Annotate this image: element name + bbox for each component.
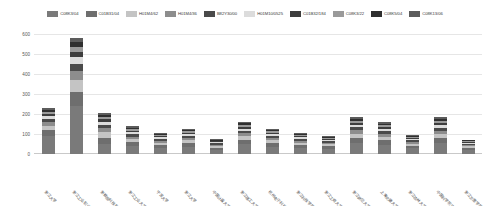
bar-segment bbox=[70, 64, 83, 72]
plot-area: 0100200300400500600 浙江大学浙江工业职业技术学院浙数据科技职… bbox=[34, 34, 482, 154]
legend-item[interactable]: C01B32/184 bbox=[290, 11, 326, 17]
bar-stack[interactable] bbox=[182, 129, 195, 154]
bar-stack[interactable] bbox=[350, 117, 363, 154]
bar-segment bbox=[266, 147, 279, 154]
bar-segment bbox=[98, 144, 111, 154]
bar-stack[interactable] bbox=[434, 117, 447, 154]
x-axis-tick-label: 浙江农林大学 bbox=[407, 190, 427, 206]
bar-segment bbox=[70, 80, 83, 92]
bar-segment bbox=[462, 150, 475, 154]
bar-stack[interactable] bbox=[210, 139, 223, 154]
bar-segment bbox=[126, 146, 139, 154]
legend-label: C08K3/04 bbox=[60, 11, 78, 17]
legend-swatch-icon bbox=[244, 11, 255, 17]
y-axis-tick-label: 500 bbox=[22, 52, 30, 57]
bar-stack[interactable] bbox=[266, 129, 279, 154]
bar-stack[interactable] bbox=[126, 126, 139, 154]
legend-swatch-icon bbox=[371, 11, 382, 17]
x-axis-tick-label: 浙江工商大学 bbox=[323, 190, 343, 206]
bar-stack[interactable] bbox=[70, 38, 83, 154]
y-axis-tick-label: 300 bbox=[22, 92, 30, 97]
y-axis-tick-label: 400 bbox=[22, 72, 30, 77]
legend-item[interactable]: C08K3/04 bbox=[47, 11, 78, 17]
legend-label: H01M10/0525 bbox=[257, 11, 283, 17]
y-axis-tick-label: 0 bbox=[27, 152, 30, 157]
x-axis-tick-label: 浙江工业职业技术学院 bbox=[71, 190, 102, 206]
x-axis-tick-label: 浙江大学 bbox=[43, 190, 57, 204]
bar-segment bbox=[350, 143, 363, 154]
legend-swatch-icon bbox=[47, 11, 58, 17]
x-axis-tick-label: 浙江科技学院 bbox=[295, 190, 315, 206]
legend-item[interactable]: C08K5/04 bbox=[371, 11, 402, 17]
y-axis-tick-label: 200 bbox=[22, 112, 30, 117]
bar-series-container bbox=[34, 34, 482, 154]
bar-stack[interactable] bbox=[238, 122, 251, 154]
x-axis-tick-label: 浙江大学 bbox=[183, 190, 197, 204]
legend-swatch-icon bbox=[333, 11, 344, 17]
x-axis-tick-label: 上海交通大学 bbox=[379, 190, 399, 206]
x-axis-tick-label: 浙江理工大学 bbox=[239, 190, 259, 206]
stacked-bar-chart: C08K3/04C01B31/04H01M4/62H01M4/36B82Y30/… bbox=[0, 0, 490, 206]
bar-segment bbox=[70, 106, 83, 154]
bar-segment bbox=[406, 148, 419, 154]
x-axis-tick-label: 杭州电子科技大学 bbox=[267, 190, 292, 206]
bar-segment bbox=[378, 145, 391, 154]
bar-segment bbox=[42, 136, 55, 154]
bar-stack[interactable] bbox=[42, 108, 55, 154]
x-axis-tick-label: 中国计量大学 bbox=[211, 190, 231, 206]
x-axis-tick-label: 浙江万里学院 bbox=[463, 190, 483, 206]
legend-swatch-icon bbox=[409, 11, 420, 17]
legend-item[interactable]: C08K3/22 bbox=[333, 11, 364, 17]
x-axis-tick-label: 浙江工业大学 bbox=[127, 190, 147, 206]
bar-stack[interactable] bbox=[378, 122, 391, 154]
chart-legend: C08K3/04C01B31/04H01M4/62H01M4/36B82Y30/… bbox=[0, 11, 490, 17]
legend-item[interactable]: H01M4/36 bbox=[165, 11, 197, 17]
legend-swatch-icon bbox=[165, 11, 176, 17]
bar-stack[interactable] bbox=[154, 133, 167, 154]
legend-swatch-icon bbox=[290, 11, 301, 17]
bar-segment bbox=[238, 144, 251, 154]
legend-label: H01M4/36 bbox=[178, 11, 197, 17]
legend-swatch-icon bbox=[204, 11, 215, 17]
bar-segment bbox=[434, 143, 447, 154]
legend-item[interactable]: C01B31/04 bbox=[86, 11, 120, 17]
bar-stack[interactable] bbox=[406, 135, 419, 154]
legend-swatch-icon bbox=[126, 11, 137, 17]
bar-stack[interactable] bbox=[98, 113, 111, 154]
legend-label: C08K3/22 bbox=[346, 11, 364, 17]
bar-segment bbox=[322, 149, 335, 154]
bar-stack[interactable] bbox=[322, 136, 335, 154]
bar-stack[interactable] bbox=[462, 140, 475, 154]
legend-label: C08K5/04 bbox=[384, 11, 402, 17]
legend-item[interactable]: C08K13/06 bbox=[409, 11, 443, 17]
bar-segment bbox=[70, 71, 83, 80]
legend-label: C01B31/04 bbox=[99, 11, 120, 17]
x-axis-tick-label: 宁波大学 bbox=[155, 190, 169, 204]
legend-label: C01B32/184 bbox=[303, 11, 326, 17]
bar-segment bbox=[182, 147, 195, 154]
legend-swatch-icon bbox=[86, 11, 97, 17]
legend-item[interactable]: B82Y30/00 bbox=[204, 11, 237, 17]
legend-item[interactable]: H01M4/62 bbox=[126, 11, 158, 17]
bar-segment bbox=[70, 92, 83, 106]
legend-item[interactable]: H01M10/0525 bbox=[244, 11, 283, 17]
bar-segment bbox=[154, 148, 167, 154]
bar-segment bbox=[210, 150, 223, 154]
x-axis-tick-label: 浙江师范大学 bbox=[351, 190, 371, 206]
y-axis-tick-label: 600 bbox=[22, 32, 30, 37]
legend-label: C08K13/06 bbox=[422, 11, 443, 17]
y-axis-tick-label: 100 bbox=[22, 132, 30, 137]
legend-label: H01M4/62 bbox=[139, 11, 158, 17]
bar-stack[interactable] bbox=[294, 133, 307, 154]
legend-label: B82Y30/00 bbox=[217, 11, 237, 17]
bar-segment bbox=[294, 148, 307, 154]
